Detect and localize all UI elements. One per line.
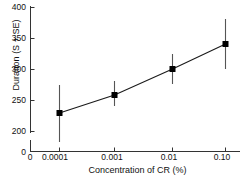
x-tick-marks bbox=[31, 148, 226, 152]
data-line bbox=[60, 44, 226, 113]
error-bars bbox=[60, 19, 226, 142]
chart-figure: Duration (S + SE) 400 350 300 250 200 0 … bbox=[0, 0, 249, 179]
plot-area bbox=[0, 0, 249, 179]
data-markers bbox=[57, 41, 229, 116]
y-tick-marks bbox=[31, 8, 35, 152]
